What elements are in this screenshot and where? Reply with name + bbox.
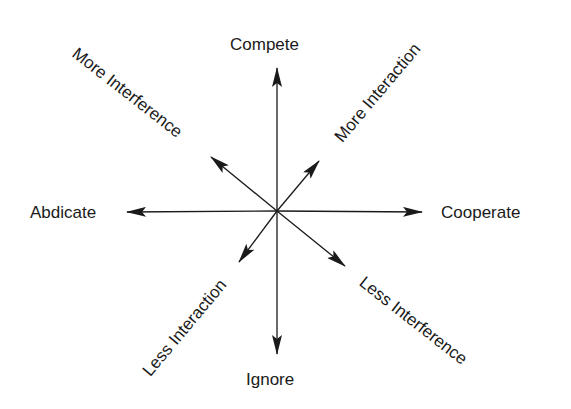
arrow-less-interaction (239, 211, 277, 262)
arrow-abdicate (127, 211, 277, 212)
label-ignore: Ignore (246, 371, 294, 388)
label-compete: Compete (230, 36, 299, 53)
label-abdicate: Abdicate (30, 204, 96, 221)
arrow-cooperate (277, 211, 422, 212)
arrow-more-interaction (277, 161, 319, 211)
interaction-strategy-diagram: Compete Ignore Abdicate Cooperate More I… (0, 0, 571, 409)
label-cooperate: Cooperate (441, 204, 520, 221)
arrow-more-interference (211, 157, 277, 211)
arrow-less-interference (277, 211, 345, 266)
